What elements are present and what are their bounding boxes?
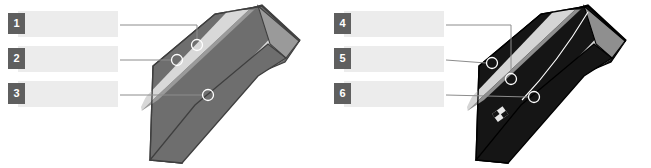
- answer-text-5: [356, 49, 440, 69]
- leader-line-6: [446, 95, 528, 97]
- callout-marker-2: [172, 55, 183, 66]
- callout-badge-6: 6: [334, 83, 351, 104]
- answer-text-1: [30, 14, 114, 34]
- callout-marker-4: [506, 74, 517, 85]
- panel-right: 4 5 6: [326, 0, 651, 168]
- answer-text-4: [356, 14, 440, 34]
- leader-line-5: [446, 60, 486, 63]
- callout-badge-1: 1: [8, 13, 25, 34]
- leader-line-4: [446, 25, 511, 72]
- diagram-sheet: 1 2 3: [0, 0, 651, 168]
- callout-badge-4: 4: [334, 13, 351, 34]
- callout-marker-5: [487, 58, 498, 69]
- callout-badge-3: 3: [8, 83, 25, 104]
- answer-text-3: [30, 84, 114, 104]
- answer-text-2: [30, 49, 114, 69]
- callout-marker-1: [192, 40, 203, 51]
- callout-marker-6: [529, 92, 540, 103]
- answer-text-6: [356, 84, 440, 104]
- callout-badge-2: 2: [8, 48, 25, 69]
- callout-marker-3: [203, 90, 214, 101]
- leader-line-1: [120, 25, 197, 39]
- callout-badge-5: 5: [334, 48, 351, 69]
- panel-left: 1 2 3: [0, 0, 325, 168]
